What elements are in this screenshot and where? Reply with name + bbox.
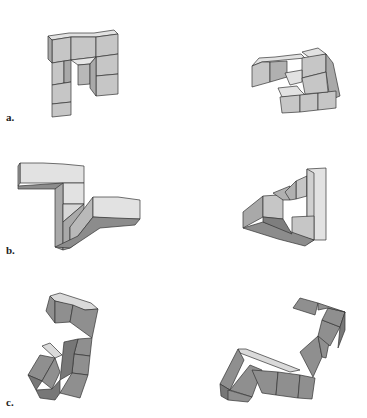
cube-face xyxy=(296,176,307,199)
cube-face xyxy=(96,54,118,76)
cube-face xyxy=(72,354,90,375)
cube-face xyxy=(52,102,71,117)
cube-face xyxy=(70,305,98,338)
row-label-c: c. xyxy=(6,396,14,408)
cube-face xyxy=(71,37,96,60)
cube-face xyxy=(46,296,55,323)
cube-face xyxy=(270,61,287,82)
cube-face xyxy=(63,183,84,204)
mental-rotation-figure: a. b. c. xyxy=(0,0,367,418)
cube-face xyxy=(300,93,318,112)
cube-face xyxy=(20,163,84,183)
cube-face xyxy=(52,82,71,104)
cube-face xyxy=(252,62,270,87)
cube-face xyxy=(48,36,52,63)
cube-figures-drawing xyxy=(0,0,367,418)
cube-face xyxy=(300,336,322,377)
cube-face xyxy=(18,163,20,186)
cube-face xyxy=(90,57,96,96)
cube-face xyxy=(280,95,300,113)
cube-face xyxy=(318,91,336,110)
row-label-a: a. xyxy=(6,111,14,123)
cube-face xyxy=(96,74,118,96)
cube-face xyxy=(64,60,71,83)
cube-face xyxy=(293,298,318,315)
cube-face xyxy=(52,61,64,85)
cube-face xyxy=(52,37,71,63)
row-label-b: b. xyxy=(6,244,15,256)
cube-face xyxy=(96,34,118,57)
cube-face xyxy=(285,70,302,85)
cube-face xyxy=(298,375,315,399)
cube-face xyxy=(93,197,140,219)
cube-face xyxy=(78,64,90,85)
cube-face xyxy=(276,372,300,398)
cube-face xyxy=(263,195,283,219)
cube-face xyxy=(55,183,63,250)
